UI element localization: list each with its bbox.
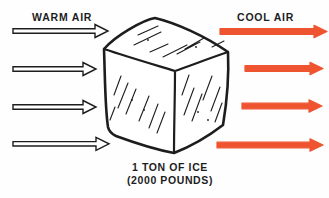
cool-air-arrow-icon xyxy=(220,25,327,37)
warm-air-arrow-icon xyxy=(13,137,109,150)
ice-cube-heat-diagram: WARM AIR COOL AIR xyxy=(0,0,329,198)
cool-air-arrow-icon xyxy=(217,139,323,151)
cool-air-arrows xyxy=(217,25,327,151)
warm-air-arrow-icon xyxy=(13,63,96,76)
cool-air-arrow-icon xyxy=(242,100,322,112)
cool-air-arrow-icon xyxy=(245,62,323,74)
ice-cube-drawing xyxy=(104,18,228,153)
ice-caption: 1 TON OF ICE (2000 POUNDS) xyxy=(100,161,240,187)
warm-air-arrows xyxy=(13,25,109,151)
warm-air-arrow-icon xyxy=(13,25,108,38)
ice-caption-line2: (2000 POUNDS) xyxy=(100,174,240,187)
ice-caption-line1: 1 TON OF ICE xyxy=(100,161,240,174)
ice-cube-outline xyxy=(104,18,228,153)
warm-air-arrow-icon xyxy=(13,101,96,114)
